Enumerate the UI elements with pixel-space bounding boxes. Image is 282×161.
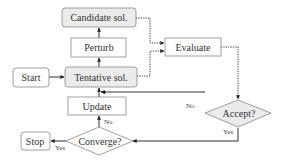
- node-update: Update: [68, 97, 126, 115]
- node-perturb-label: Perturb: [84, 42, 113, 53]
- node-stop: Stop: [21, 132, 50, 150]
- edge-candidate-evaluate: [136, 18, 164, 43]
- node-evaluate: Evaluate: [165, 38, 221, 56]
- node-converge-label: Converge?: [78, 136, 122, 147]
- node-evaluate-label: Evaluate: [176, 42, 212, 53]
- node-update-label: Update: [83, 101, 112, 112]
- edge-label-converge-no: No: [104, 118, 113, 126]
- node-candidate: Candidate sol.: [62, 8, 136, 27]
- node-tentative: Tentative sol.: [65, 67, 137, 87]
- edge-tentative-evaluate: [137, 51, 164, 76]
- node-start: Start: [13, 68, 49, 87]
- flowchart-diagram: Candidate sol. Perturb Start Tentative s…: [0, 0, 282, 161]
- node-start-label: Start: [22, 72, 41, 83]
- edge-label-accept-no: No: [186, 102, 195, 110]
- node-accept-label: Accept?: [223, 108, 256, 119]
- node-candidate-label: Candidate sol.: [70, 12, 127, 23]
- node-tentative-label: Tentative sol.: [74, 72, 128, 83]
- node-perturb: Perturb: [71, 38, 126, 57]
- edge-label-converge-yes: Yes: [55, 144, 65, 152]
- node-accept: Accept?: [205, 100, 271, 127]
- node-converge: Converge?: [66, 127, 133, 155]
- edge-evaluate-accept: [221, 47, 238, 99]
- edge-label-accept-yes: Yes: [223, 128, 233, 136]
- node-stop-label: Stop: [26, 136, 44, 147]
